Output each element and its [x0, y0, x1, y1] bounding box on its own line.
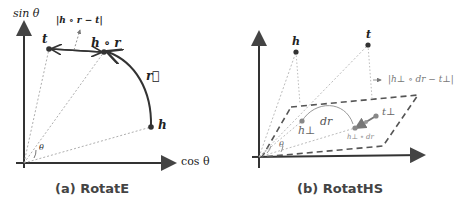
distance-label-b: |h⊥ ∘ dr − t⊥|: [388, 74, 454, 84]
point-t-perp: [373, 113, 378, 118]
label-h-b: h: [292, 35, 300, 48]
point-t-b: [365, 42, 370, 47]
label-h-perp-dr: h⊥ ∘ dr: [347, 133, 374, 141]
point-t: [46, 46, 52, 52]
label-h-r: h ∘ r: [91, 36, 121, 50]
y-axis-label: sin θ: [13, 7, 39, 20]
angle-label-a: θ: [39, 143, 44, 152]
label-h: h: [158, 118, 167, 132]
x-axis-label: cos θ: [181, 155, 210, 168]
relation-label-dr: dr: [320, 115, 332, 128]
label-t-perp: t⊥: [382, 106, 395, 117]
angle-label-b: θ: [279, 140, 284, 149]
point-h-r: [101, 49, 107, 55]
point-h-perp-dr: [352, 125, 357, 130]
label-h-perp: h⊥: [298, 124, 315, 137]
point-h-perp: [299, 118, 304, 123]
caption-a: (a) RotatE: [55, 181, 129, 196]
caption-b: (b) RotatHS: [297, 181, 383, 196]
distance-label-a: |h ∘ r − t|: [56, 15, 103, 25]
hyperplane: [262, 95, 418, 157]
relation-label-r: r⃗: [146, 69, 160, 83]
rotation-arc: [108, 52, 151, 127]
panel-rotaths: [252, 32, 424, 168]
point-h-b: [293, 49, 298, 54]
label-t-b: t: [366, 28, 371, 41]
diagram-canvas: [0, 0, 463, 206]
label-t: t: [42, 32, 48, 46]
point-h: [148, 124, 154, 130]
